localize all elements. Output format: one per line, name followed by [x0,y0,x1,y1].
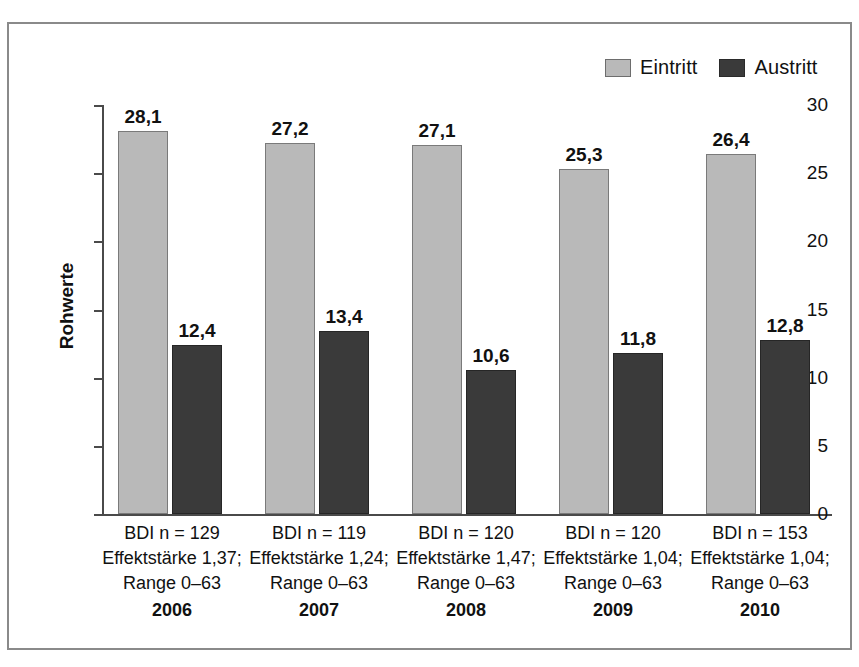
bar-eintritt-2006: 28,1 [118,131,168,514]
y-tick-label: 25 [807,162,828,184]
annotation-range: Range 0–63 [249,571,389,596]
x-axis-line [102,514,832,516]
bar-value-label: 27,2 [272,118,309,140]
bar-eintritt-2007: 27,2 [265,143,315,514]
bar-group-2006: 28,112,4 [118,105,222,514]
y-tick-mark [94,105,102,107]
annotation-year: 2009 [543,598,683,623]
annotation-year: 2006 [102,598,242,623]
legend-item-eintritt: Eintritt [605,56,697,79]
y-tick-label: 20 [807,230,828,252]
annotation-n: BDI n = 129 [102,521,242,546]
annotation-effect-size: Effektstärke 1,47; [396,546,536,571]
bar-group-2010: 26,412,8 [706,105,810,514]
y-tick-label: 30 [807,94,828,116]
bar-austritt-2010: 12,8 [760,340,810,515]
annotation-range: Range 0–63 [396,571,536,596]
legend-label-eintritt: Eintritt [640,56,697,79]
x-group-annotation-2008: BDI n = 120Effektstärke 1,47;Range 0–632… [396,521,536,623]
bar-eintritt-2009: 25,3 [559,169,609,514]
bar-austritt-2006: 12,4 [172,345,222,514]
annotation-n: BDI n = 120 [396,521,536,546]
y-tick-mark [94,514,102,516]
annotation-effect-size: Effektstärke 1,37; [102,546,242,571]
annotation-range: Range 0–63 [102,571,242,596]
y-tick-mark [94,241,102,243]
annotation-year: 2008 [396,598,536,623]
bar-value-label: 10,6 [473,345,510,367]
annotation-effect-size: Effektstärke 1,04; [690,546,830,571]
bar-value-label: 25,3 [566,144,603,166]
chart-legend: Eintritt Austritt [605,56,818,79]
bar-eintritt-2010: 26,4 [706,154,756,514]
bar-value-label: 11,8 [620,328,656,350]
annotation-n: BDI n = 120 [543,521,683,546]
legend-swatch-eintritt [605,59,631,77]
chart-frame: Eintritt Austritt Rohwerte 302520151050 … [7,22,852,650]
y-tick-label: 10 [807,367,828,389]
annotation-range: Range 0–63 [690,571,830,596]
bar-value-label: 26,4 [713,129,750,151]
bar-value-label: 12,4 [179,320,216,342]
bar-group-2008: 27,110,6 [412,105,516,514]
x-group-annotation-2009: BDI n = 120Effektstärke 1,04;Range 0–632… [543,521,683,623]
x-group-annotation-2010: BDI n = 153Effektstärke 1,04;Range 0–632… [690,521,830,623]
bar-group-2009: 25,311,8 [559,105,663,514]
annotation-effect-size: Effektstärke 1,04; [543,546,683,571]
annotation-year: 2007 [249,598,389,623]
bar-value-label: 12,8 [767,315,804,337]
annotation-n: BDI n = 153 [690,521,830,546]
bar-value-label: 13,4 [326,306,363,328]
annotation-range: Range 0–63 [543,571,683,596]
legend-item-austritt: Austritt [719,56,817,79]
plot-area: Rohwerte 302520151050 28,112,427,213,427… [102,105,842,514]
legend-swatch-austritt [719,59,745,77]
x-group-annotation-2006: BDI n = 129Effektstärke 1,37;Range 0–632… [102,521,242,623]
bar-austritt-2007: 13,4 [319,331,369,514]
y-tick-label: 15 [807,299,828,321]
x-group-annotation-2007: BDI n = 119Effektstärke 1,24;Range 0–632… [249,521,389,623]
y-axis-title: Rohwerte [56,263,78,350]
y-tick-mark [94,446,102,448]
y-tick-mark [94,310,102,312]
y-tick-label: 5 [817,435,828,457]
annotation-year: 2010 [690,598,830,623]
annotation-effect-size: Effektstärke 1,24; [249,546,389,571]
y-tick-mark [94,378,102,380]
bar-group-2007: 27,213,4 [265,105,369,514]
bar-austritt-2008: 10,6 [466,370,516,515]
y-tick-mark [94,173,102,175]
x-axis-labels: BDI n = 129Effektstärke 1,37;Range 0–632… [104,521,844,631]
bar-value-label: 27,1 [419,120,456,142]
bar-austritt-2009: 11,8 [613,353,663,514]
bar-value-label: 28,1 [125,106,162,128]
y-axis-line [102,105,104,514]
annotation-n: BDI n = 119 [249,521,389,546]
bar-eintritt-2008: 27,1 [412,145,462,514]
legend-label-austritt: Austritt [754,56,817,79]
